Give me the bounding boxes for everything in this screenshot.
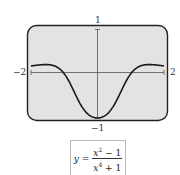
y-min-label: −1 xyxy=(91,124,104,133)
denominator: x4 + 1 xyxy=(93,159,121,174)
y-max-label: 1 xyxy=(95,16,101,25)
fraction: x2 − 1 x4 + 1 xyxy=(92,145,122,174)
equation-box: y = x2 − 1 x4 + 1 xyxy=(70,140,126,175)
x-max-label: 2 xyxy=(170,68,176,77)
numerator: x2 − 1 xyxy=(92,145,122,159)
x-min-label: −2 xyxy=(13,68,26,77)
equation-lhs: y = xyxy=(74,154,90,164)
